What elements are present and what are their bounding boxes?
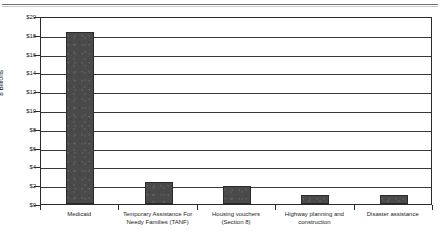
x-axis-category-label: Disaster assistance bbox=[354, 210, 432, 218]
x-axis-category-label: Highway planning andconstruction bbox=[275, 210, 353, 226]
bar bbox=[145, 182, 173, 204]
x-axis-category-label-line: Medicaid bbox=[40, 210, 118, 218]
x-axis-category-label: Temporary Assistance ForNeedy Families (… bbox=[118, 210, 196, 226]
x-axis-category-label: Medicaid bbox=[40, 210, 118, 218]
y-axis-tick-label: $14 bbox=[6, 70, 36, 76]
bar bbox=[66, 32, 94, 204]
gridline bbox=[41, 131, 431, 132]
x-axis-category-label-line: (Section 8) bbox=[197, 218, 275, 226]
x-axis-category-label-line: Needy Families (TANF) bbox=[118, 218, 196, 226]
bar bbox=[380, 195, 408, 204]
y-axis-tick-label: $4 bbox=[6, 164, 36, 170]
bar bbox=[223, 186, 251, 204]
x-axis-category-label: Housing vouchers(Section 8) bbox=[197, 210, 275, 226]
y-axis-tick-label: $6 bbox=[6, 146, 36, 152]
figure: $ Billions $0$2$4$6$8$10$12$14$16$18$20 … bbox=[0, 0, 440, 238]
bar bbox=[301, 195, 329, 204]
x-axis-category-label-line: Disaster assistance bbox=[354, 210, 432, 218]
gridline bbox=[41, 56, 431, 57]
y-axis-tick-label: $2 bbox=[6, 183, 36, 189]
page-divider-rule-secondary bbox=[2, 6, 438, 7]
x-axis-tick-mark bbox=[432, 205, 433, 210]
gridline bbox=[41, 93, 431, 94]
y-axis-tick-label: $8 bbox=[6, 127, 36, 133]
plot-area bbox=[40, 17, 432, 205]
gridline bbox=[41, 74, 431, 75]
x-axis-category-label-line: construction bbox=[275, 218, 353, 226]
page-divider-rule bbox=[2, 4, 438, 5]
y-axis-tick-label: $10 bbox=[6, 108, 36, 114]
gridline bbox=[41, 112, 431, 113]
x-axis-category-label-line: Housing vouchers bbox=[197, 210, 275, 218]
y-axis-tick-label: $12 bbox=[6, 89, 36, 95]
y-axis-tick-label: $20 bbox=[6, 14, 36, 20]
y-axis-tick-label: $16 bbox=[6, 52, 36, 58]
gridline bbox=[41, 37, 431, 38]
gridline bbox=[41, 168, 431, 169]
y-axis-tick-label: $0 bbox=[6, 202, 36, 208]
gridline bbox=[41, 150, 431, 151]
x-axis-category-label-line: Highway planning and bbox=[275, 210, 353, 218]
y-axis-title: $ Billions bbox=[0, 70, 4, 96]
y-axis-tick-label: $18 bbox=[6, 33, 36, 39]
x-axis-category-label-line: Temporary Assistance For bbox=[118, 210, 196, 218]
